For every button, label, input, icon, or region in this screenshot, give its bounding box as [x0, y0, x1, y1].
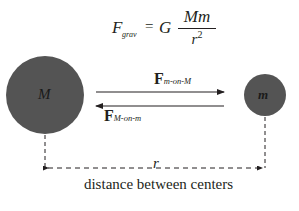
distance-caption: distance between centers — [0, 176, 299, 193]
force-label-M-on-m: FM-on-m — [104, 107, 141, 125]
force-symbol: F — [104, 107, 114, 124]
force-subscript: m-on-M — [164, 76, 191, 86]
distance-label: r — [153, 155, 159, 172]
force-label-m-on-M: Fm-on-M — [154, 70, 191, 88]
large-mass-label: M — [38, 86, 51, 103]
force-symbol: F — [154, 70, 164, 87]
force-subscript: M-on-m — [114, 113, 141, 123]
small-mass-label: m — [258, 87, 268, 103]
